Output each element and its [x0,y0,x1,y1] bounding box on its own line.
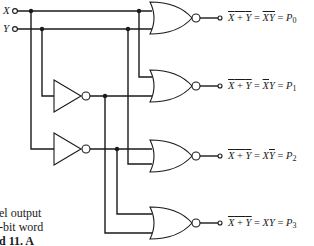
inverter-x [54,133,81,165]
nor-gate-p3 [150,207,222,239]
nor-gate-p2 [150,140,222,172]
nor-gate-p0 [150,2,222,34]
y-input-terminal [13,27,18,32]
output-equation-p2: X + Y = XY = P2 [228,150,296,165]
output-equation-p3: X + Y = XY = P3 [228,217,296,232]
xbar-to-p3-wire [117,149,152,214]
x-input-terminal [13,9,18,14]
nor-decoder-circuit [0,0,314,246]
inverter-y [54,80,81,112]
output-equation-p0: X + Y = XY = P0 [228,12,296,27]
output-equation-p1: X + Y = XY = P1 [228,80,296,95]
x-to-p1-wire [139,11,152,77]
nor-gate-p1 [150,70,222,102]
y-input-label: Y [3,22,9,34]
y-to-inverter-wire [42,29,54,96]
caption-line-2: -bit word [0,220,43,234]
caption-line-1: el output [0,206,41,220]
caption-line-3: d 11. A [0,234,34,246]
inverter-bubble [82,92,90,100]
x-input-label: X [3,4,10,16]
inverter-bubble [82,145,90,153]
